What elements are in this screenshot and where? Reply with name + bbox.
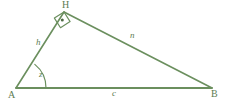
- right-angle-dot-icon: [61, 18, 64, 21]
- geometry-diagram: H A B h n c z: [0, 0, 226, 107]
- side-label-n: n: [130, 31, 135, 40]
- angle-label-z: z: [39, 70, 43, 79]
- triangle-side-hb: [64, 12, 212, 88]
- vertex-label-b: B: [211, 89, 218, 99]
- vertex-label-a: A: [8, 90, 15, 100]
- side-label-h: h: [36, 38, 41, 47]
- vertex-label-h: H: [62, 0, 69, 10]
- side-label-c: c: [112, 89, 116, 98]
